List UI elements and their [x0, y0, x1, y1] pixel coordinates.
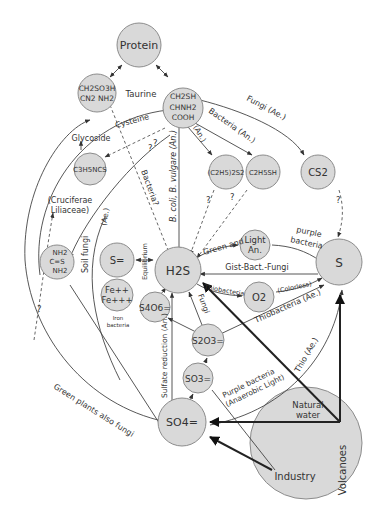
o2-node: O2 — [244, 282, 274, 312]
so4-node: SO4= — [158, 398, 206, 446]
h2s-node: H2S — [155, 247, 201, 293]
svg-text:CHNH2: CHNH2 — [170, 103, 197, 112]
volcanoes-label: Volcanoes — [337, 445, 348, 495]
svg-text:NH2: NH2 — [53, 249, 68, 257]
sulfate-reduction-label: Sulfate reduction (An.) — [160, 313, 169, 398]
svg-text:?: ? — [37, 304, 42, 314]
bacteria-question-label: Bacteria? — [139, 169, 160, 207]
svg-text:(C2H5)2S2: (C2H5)2S2 — [208, 169, 245, 177]
s2o3-node: S2O3= — [192, 324, 224, 356]
svg-text:Light: Light — [244, 235, 266, 245]
svg-text:bacteria: bacteria — [107, 322, 130, 328]
equilibrium-label: Equilibrium — [141, 243, 149, 280]
svg-text:?: ? — [148, 143, 153, 153]
thiourea-node: NH2 C=S NH2 — [40, 245, 74, 279]
svg-text:(Ae.): (Ae.) — [99, 207, 111, 226]
svg-text:C3H5NCS: C3H5NCS — [73, 166, 107, 174]
fungi-ae-label: Fungi (Ae.) — [245, 94, 287, 122]
svg-text:water: water — [296, 410, 321, 420]
green-and-label: Green and — [202, 237, 245, 257]
sulfur-cycle-diagram: Protein CH2SO3H CN2 NH2 CH2SH CHNH2 COOH… — [0, 0, 380, 516]
thio-ae-label: Thio (Ae.) — [292, 336, 320, 375]
svg-text:O2: O2 — [252, 292, 266, 303]
cs2-node: CS2 — [301, 155, 335, 189]
bcoli-label: B. coli, B. vulgare (An.) — [169, 130, 178, 222]
sulfide-node: S= — [100, 243, 134, 277]
svg-text:C=S: C=S — [49, 258, 65, 266]
glycoside-label: Glycoside — [72, 134, 111, 143]
svg-text:?: ? — [230, 192, 235, 202]
fungi-label: Fungi — [196, 293, 211, 315]
svg-text:C2H5SH: C2H5SH — [249, 169, 277, 177]
iron-node: Fe++ Fe+++ — [101, 279, 133, 311]
cysteine-label: Cysteine — [114, 112, 150, 130]
svg-text:(Cruciferae: (Cruciferae — [48, 196, 93, 205]
taurine-node: CH2SO3H CN2 NH2 — [78, 74, 116, 112]
green-plants-label: Green plants also fungi — [52, 382, 136, 439]
svg-text:COOH: COOH — [172, 113, 195, 122]
c2h5-2-s2-node: (C2H5)2S2 — [208, 155, 245, 189]
protein-node: Protein — [117, 23, 161, 67]
taurine-label: Taurine — [125, 89, 157, 99]
soil-fungi-label: Soil fungi — [81, 236, 90, 273]
c2h5sh-node: C2H5SH — [246, 155, 280, 189]
iron-bacteria-label: Iron — [113, 315, 124, 321]
svg-text:SO3=: SO3= — [185, 374, 211, 384]
svg-text:CN2 NH2: CN2 NH2 — [80, 94, 114, 103]
c3h5ncs-node: C3H5NCS — [73, 153, 107, 185]
svg-text:S=: S= — [110, 255, 125, 266]
svg-text:NH2: NH2 — [53, 267, 68, 275]
svg-text:CS2: CS2 — [308, 167, 328, 178]
svg-text:?: ? — [336, 195, 341, 205]
svg-text:S4O6=: S4O6= — [139, 303, 171, 313]
svg-text:S: S — [335, 256, 343, 270]
bacteria-an-label: Bacteria (An.) — [207, 106, 257, 145]
thiobacteria-label: Thiobacteria — [203, 283, 245, 298]
industry-label: Industry — [274, 471, 315, 482]
svg-text:Fe++: Fe++ — [105, 285, 129, 295]
svg-text:An.: An. — [248, 245, 262, 255]
sulfur-node: S — [316, 239, 362, 285]
svg-text:CH2SH: CH2SH — [170, 92, 196, 101]
svg-text:H2S: H2S — [166, 264, 190, 278]
svg-text:CH2SO3H: CH2SO3H — [79, 84, 116, 93]
svg-text:Liliaceae): Liliaceae) — [51, 206, 89, 215]
svg-text:?: ? — [153, 138, 158, 148]
svg-text:SO4=: SO4= — [166, 416, 198, 429]
cysteine-node: CH2SH CHNH2 COOH — [163, 88, 203, 128]
gist-label: Gist-Bact.-Fungi — [225, 263, 288, 272]
svg-text:S2O3=: S2O3= — [192, 336, 224, 346]
protein-label: Protein — [120, 39, 159, 52]
so3-node: SO3= — [183, 363, 213, 393]
svg-text:?: ? — [206, 195, 211, 205]
natural-water-label: Natural — [292, 400, 323, 410]
svg-text:Fe+++: Fe+++ — [101, 295, 132, 305]
